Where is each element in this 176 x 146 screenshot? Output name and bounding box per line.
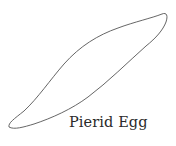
figure-caption: Pierid Egg xyxy=(69,114,148,130)
egg-outline xyxy=(9,13,167,128)
